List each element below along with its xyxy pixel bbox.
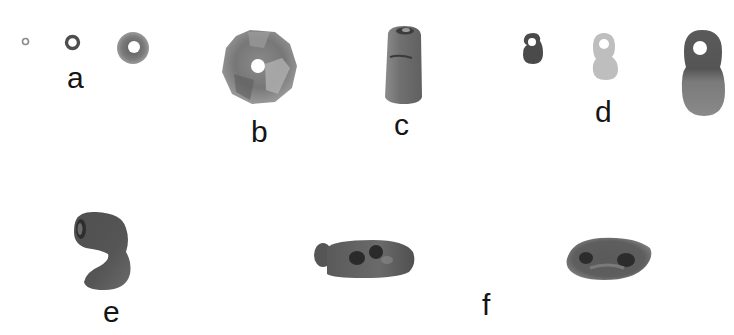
bead-a-small-ring <box>21 37 30 46</box>
label-f: f <box>482 290 490 320</box>
label-d: d <box>595 97 612 127</box>
bead-b-disc <box>220 28 298 106</box>
bead-d-light-pendant <box>590 33 620 81</box>
bead-f-perforated-side <box>313 238 417 280</box>
bead-d-small-dark-pendant <box>521 33 545 65</box>
label-a: a <box>67 63 84 93</box>
bead-a-large-ring <box>116 31 150 65</box>
label-c: c <box>394 110 409 140</box>
bead-c-cylinder <box>382 25 424 105</box>
label-e: e <box>103 297 120 327</box>
bead-plate: a b c d <box>0 0 734 335</box>
bead-e-curved-hook <box>72 210 134 292</box>
bead-d-large-pendant <box>680 29 726 117</box>
label-b: b <box>251 117 268 147</box>
bead-a-medium-ring <box>64 34 81 51</box>
bead-f-perforated-other <box>564 236 654 282</box>
